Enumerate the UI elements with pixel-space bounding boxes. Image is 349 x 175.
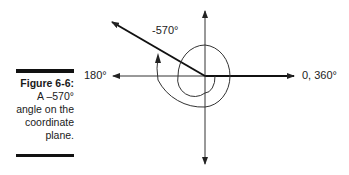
axis-label-0-360: 0, 360° (302, 69, 337, 81)
spiral-arrowhead-icon (155, 53, 161, 63)
angle-label: -570° (152, 24, 178, 36)
axis-label-180: 180° (84, 69, 107, 81)
